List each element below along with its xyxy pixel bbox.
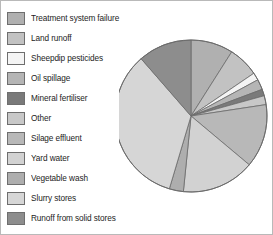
- legend-item-label: Land runoff: [31, 33, 72, 43]
- legend-swatch: [7, 72, 25, 85]
- chart-figure: Treatment system failureLand runoffSheep…: [0, 0, 273, 235]
- pie-chart-svg: [119, 29, 271, 209]
- legend-swatch: [7, 132, 25, 145]
- legend-item-label: Sheepdip pesticides: [31, 53, 103, 63]
- legend-swatch: [7, 192, 25, 205]
- legend-swatch: [7, 12, 25, 25]
- legend-swatch: [7, 92, 25, 105]
- legend-swatch: [7, 52, 25, 65]
- legend-item-label: Treatment system failure: [31, 13, 119, 23]
- legend-item[interactable]: Runoff from solid stores: [7, 208, 139, 228]
- legend-swatch: [7, 152, 25, 165]
- legend-swatch: [7, 172, 25, 185]
- legend-item-label: Yard water: [31, 153, 69, 163]
- legend-item-label: Other: [31, 113, 51, 123]
- legend-swatch: [7, 112, 25, 125]
- legend-item-label: Runoff from solid stores: [31, 213, 116, 223]
- legend-item-label: Oil spillage: [31, 73, 70, 83]
- legend-item-label: Vegetable wash: [31, 173, 88, 183]
- legend-item-label: Mineral fertiliser: [31, 93, 88, 103]
- legend-swatch: [7, 32, 25, 45]
- pie-chart: [119, 29, 271, 209]
- legend-swatch: [7, 212, 25, 225]
- legend-item[interactable]: Treatment system failure: [7, 8, 139, 28]
- legend-item-label: Silage effluent: [31, 133, 82, 143]
- legend-item-label: Slurry stores: [31, 193, 76, 203]
